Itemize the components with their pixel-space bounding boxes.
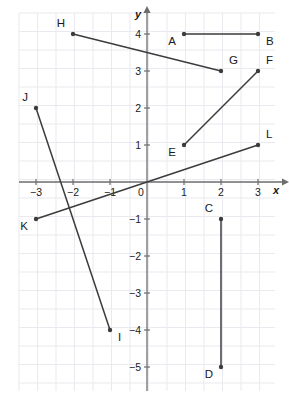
point-a xyxy=(182,32,186,36)
point-c xyxy=(219,217,223,221)
coordinate-plane-figure: xy0−3−2−11234321−1−2−3−4−5 ABCDEFGHIJKL xyxy=(0,0,289,417)
point-k xyxy=(34,217,38,221)
point-i xyxy=(108,328,112,332)
point-b xyxy=(256,32,260,36)
y-tick-label: 1 xyxy=(135,139,141,151)
point-d xyxy=(219,365,223,369)
axis-tick-labels: xy0−3−2−11234321−1−2−3−4−5 xyxy=(30,8,280,373)
x-tick-label: 1 xyxy=(181,186,187,198)
y-tick-label: 4 xyxy=(135,28,141,40)
x-tick-label: −2 xyxy=(67,186,79,198)
coordinate-plot-svg: xy0−3−2−11234321−1−2−3−4−5 ABCDEFGHIJKL xyxy=(0,0,289,417)
y-tick-label: −1 xyxy=(129,213,141,225)
y-tick-label: −4 xyxy=(129,324,141,336)
x-tick-label: 3 xyxy=(255,186,261,198)
point-h xyxy=(71,32,75,36)
y-tick-label: −3 xyxy=(129,287,141,299)
y-tick-label: −5 xyxy=(129,361,141,373)
y-axis-label: y xyxy=(134,8,142,20)
x-axis-arrowhead xyxy=(282,178,289,185)
point-label-a: A xyxy=(168,35,176,47)
y-tick-label: 2 xyxy=(135,102,141,114)
segment-ef xyxy=(184,71,258,145)
y-tick-label: 3 xyxy=(135,65,141,77)
y-tick-label: −2 xyxy=(129,250,141,262)
point-l xyxy=(256,143,260,147)
point-label-i: I xyxy=(118,331,121,343)
x-tick-label: −3 xyxy=(30,186,42,198)
point-label-j: J xyxy=(22,91,28,103)
point-label-g: G xyxy=(229,54,238,66)
point-label-h: H xyxy=(57,17,65,29)
x-axis-label: x xyxy=(272,184,280,196)
point-label-f: F xyxy=(266,54,273,66)
point-e xyxy=(182,143,186,147)
point-label-e: E xyxy=(168,146,176,158)
point-label-b: B xyxy=(266,35,274,47)
point-label-k: K xyxy=(20,220,28,232)
x-tick-label: 2 xyxy=(218,186,224,198)
point-label-d: D xyxy=(205,368,213,380)
point-label-c: C xyxy=(205,202,213,214)
point-j xyxy=(34,106,38,110)
point-g xyxy=(219,69,223,73)
origin-label: 0 xyxy=(138,186,144,198)
y-axis-arrowhead xyxy=(143,6,150,13)
point-f xyxy=(256,69,260,73)
point-label-l: L xyxy=(266,128,273,140)
segment-ij xyxy=(36,108,110,330)
